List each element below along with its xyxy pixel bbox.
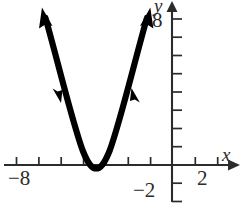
y-tick-label-neg2: −2: [133, 180, 155, 201]
y-axis-arrowhead: [167, 1, 178, 12]
x-tick-label-neg8: −8: [8, 168, 30, 189]
y-axis-label: y: [154, 0, 162, 15]
parabola-figure: −8 2 8 −2 x y: [0, 0, 246, 207]
x-axis-ticks: [17, 157, 218, 165]
parabola-right-direction-arrow: [130, 88, 140, 103]
x-axis-label: x: [222, 145, 230, 164]
y-axis-ticks: [172, 19, 182, 202]
parabola-left-direction-arrow: [53, 89, 63, 104]
x-tick-label-2: 2: [197, 168, 208, 189]
plot-canvas: [0, 0, 246, 207]
parabola-curve-group: [39, 8, 153, 169]
y-axis-group: [167, 1, 183, 202]
